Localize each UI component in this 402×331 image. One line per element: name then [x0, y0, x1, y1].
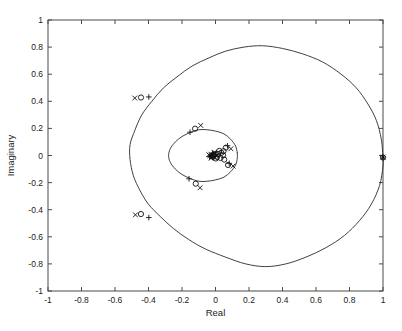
plu-marker — [146, 215, 152, 221]
x-tick-label: 0 — [213, 295, 218, 305]
x-tick-label: 0.4 — [277, 295, 289, 305]
data-markers — [132, 94, 385, 220]
inner-locus-curve — [169, 129, 238, 181]
y-tick-label: 0.4 — [31, 96, 43, 106]
poles-x-marker — [198, 123, 203, 128]
poles-x-marker — [198, 185, 203, 190]
y-tick-label: 1 — [38, 15, 43, 25]
x-tick-label: 0.8 — [344, 295, 356, 305]
x-axis-title: Real — [206, 307, 226, 318]
complex-plane-scatter-plot: -1-0.8-0.6-0.4-0.200.20.40.60.81 -1-0.8-… — [0, 0, 402, 331]
outer-locus-curve — [130, 46, 384, 267]
poles-x-marker — [229, 146, 234, 151]
figure-root: -1-0.8-0.6-0.4-0.200.20.40.60.81 -1-0.8-… — [0, 0, 402, 331]
y-tick-label: 0.2 — [31, 123, 43, 133]
y-tick-label: -0.4 — [28, 205, 43, 215]
x-tick-label: 0.2 — [243, 295, 255, 305]
x-tick-label: -0.6 — [108, 295, 123, 305]
plu-marker — [226, 161, 232, 167]
x-axis-tick-labels: -1-0.8-0.6-0.4-0.200.20.40.60.81 — [44, 295, 385, 305]
y-axis-title: Imaginary — [5, 134, 16, 176]
plu-marker — [146, 94, 152, 100]
x-tick-label: -0.2 — [175, 295, 190, 305]
poles-x-marker — [133, 212, 138, 217]
x-tick-label: -1 — [44, 295, 52, 305]
y-tick-label: 0.8 — [31, 42, 43, 52]
poles-x-marker — [132, 96, 137, 101]
y-tick-label: -0.8 — [28, 259, 43, 269]
x-tick-label: -0.4 — [141, 295, 156, 305]
zeros-circle-marker — [138, 95, 143, 100]
y-tick-label: -0.6 — [28, 232, 43, 242]
x-tick-label: 0.6 — [310, 295, 322, 305]
zeros-circle-marker — [138, 211, 143, 216]
y-axis-tick-labels: -1-0.8-0.6-0.4-0.200.20.40.60.81 — [28, 15, 43, 296]
y-tick-label: -0.2 — [28, 178, 43, 188]
y-tick-label: 0.6 — [31, 69, 43, 79]
x-tick-label: -0.8 — [74, 295, 89, 305]
plu-marker — [187, 129, 193, 135]
y-tick-label: 0 — [38, 151, 43, 161]
locus-curves — [130, 46, 384, 267]
x-tick-label: 1 — [381, 295, 386, 305]
y-tick-label: -1 — [35, 286, 43, 296]
